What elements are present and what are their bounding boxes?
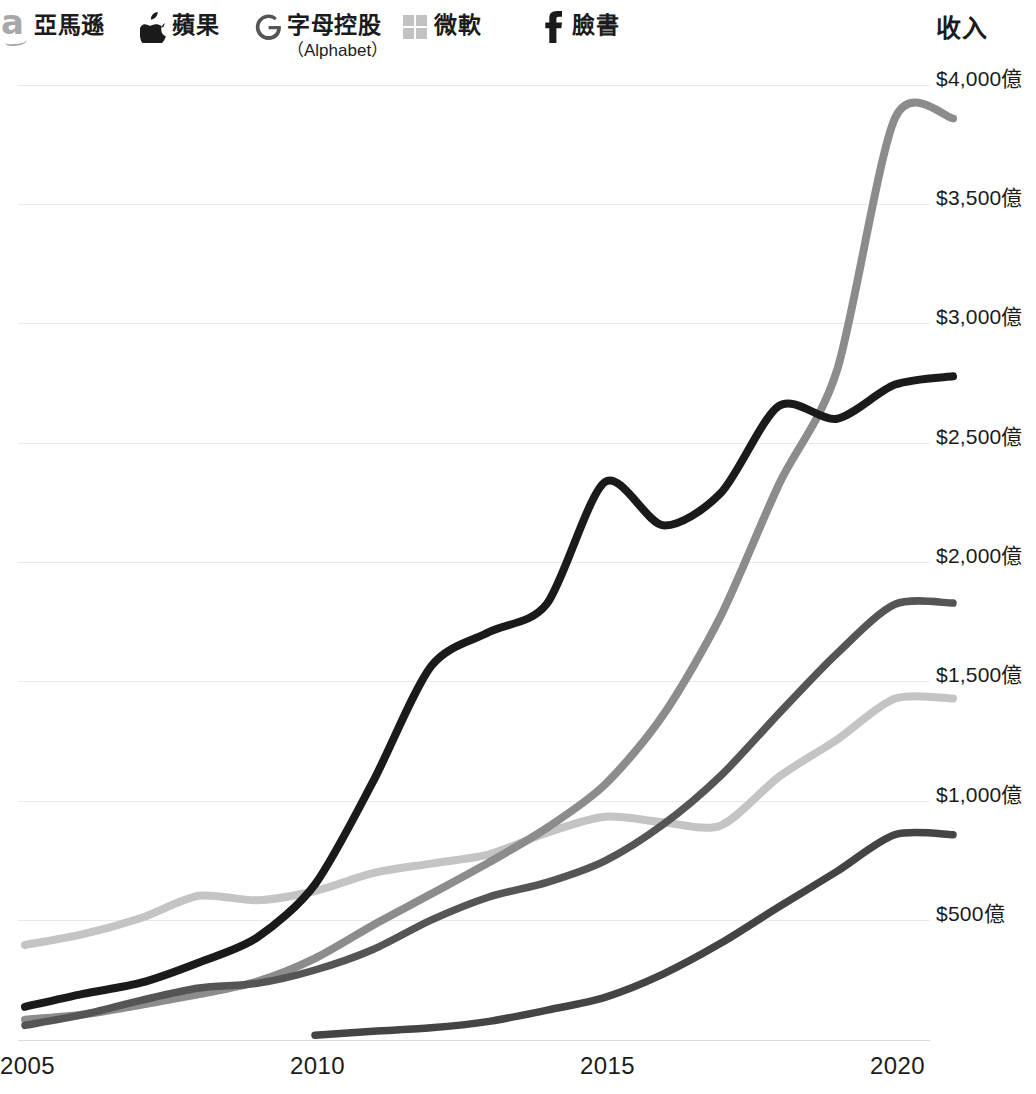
series-lines [0, 0, 1036, 1094]
series-line-alphabet [25, 601, 953, 1026]
chart-page: a 亞馬遜 蘋果 [0, 0, 1036, 1094]
series-line-microsoft [25, 696, 953, 945]
